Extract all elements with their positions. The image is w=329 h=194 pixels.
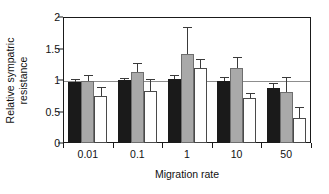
x-tick-label-4: 50 bbox=[280, 148, 292, 160]
bar-chart-figure: Relative sympatric resistance 0 0.5 1 1.… bbox=[0, 0, 329, 194]
x-axis-label: Migration rate bbox=[63, 168, 311, 180]
y-tick-label-2: 1 bbox=[34, 74, 60, 86]
x-tick-label-3: 10 bbox=[231, 148, 243, 160]
plot-area bbox=[63, 17, 311, 143]
y-axis-label: Relative sympatric resistance bbox=[0, 0, 34, 160]
x-tick-mark bbox=[311, 143, 312, 148]
reference-gridline bbox=[64, 81, 310, 82]
y-tick-label-0: 0 bbox=[34, 137, 60, 149]
y-axis-tick-labels: 0 0.5 1 1.5 2 bbox=[34, 0, 60, 194]
x-tick-mark bbox=[212, 143, 213, 148]
x-tick-label-0: 0.01 bbox=[78, 148, 98, 160]
x-tick-mark bbox=[162, 143, 163, 148]
x-tick-label-1: 0.1 bbox=[130, 148, 145, 160]
x-tick-mark bbox=[113, 143, 114, 148]
x-tick-mark bbox=[261, 143, 262, 148]
y-axis-label-line-2: resistance bbox=[17, 37, 30, 123]
y-tick-label-1: 0.5 bbox=[34, 106, 60, 118]
x-tick-mark bbox=[63, 143, 64, 148]
y-tick-label-4: 2 bbox=[34, 11, 60, 23]
y-tick-label-3: 1.5 bbox=[34, 43, 60, 55]
x-tick-label-2: 1 bbox=[184, 148, 190, 160]
y-axis-label-line-1: Relative sympatric bbox=[5, 37, 18, 123]
